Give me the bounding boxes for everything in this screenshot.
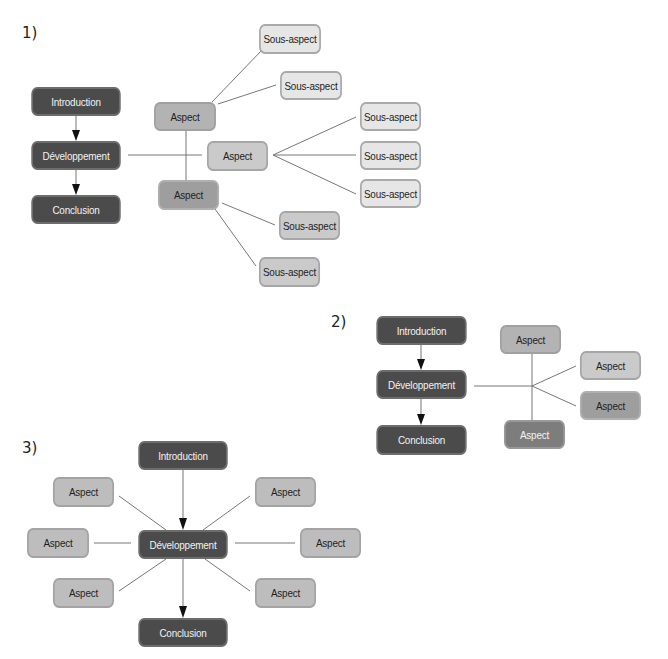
d3-aspect-upper-right: Aspect [255, 477, 316, 507]
d2-aspect-top: Aspect [500, 325, 561, 354]
d2-developpement-box: Développement [376, 370, 466, 399]
d3-introduction-box: Introduction [138, 441, 227, 470]
d1-conclusion-box: Conclusion [31, 195, 120, 224]
d1-sub-aspect-1b: Sous-aspect [280, 71, 342, 100]
diagram-1-label: 1) [22, 24, 37, 42]
d1-sub-aspect-2c: Sous-aspect [360, 179, 421, 208]
d2-introduction-box: Introduction [376, 316, 466, 345]
d1-aspect-1: Aspect [154, 102, 216, 131]
d3-conclusion-box: Conclusion [138, 618, 227, 647]
d1-sub-aspect-3a: Sous-aspect [279, 211, 340, 240]
d2-aspect-bottom: Aspect [504, 420, 565, 449]
d3-aspect-lower-left: Aspect [53, 578, 114, 608]
d1-sub-aspect-2a: Sous-aspect [360, 102, 421, 131]
d3-aspect-upper-left: Aspect [53, 477, 114, 507]
d2-aspect-right-upper: Aspect [580, 351, 641, 380]
d1-developpement-box: Développement [31, 141, 120, 170]
d3-aspect-left: Aspect [27, 528, 89, 558]
d1-sub-aspect-3b: Sous-aspect [259, 257, 320, 287]
d3-aspect-right: Aspect [300, 528, 361, 558]
d1-aspect-2: Aspect [207, 141, 268, 171]
d1-sub-aspect-2b: Sous-aspect [360, 141, 421, 170]
d3-aspect-lower-right: Aspect [255, 578, 316, 608]
d3-developpement-box: Développement [138, 530, 227, 559]
d2-aspect-right-lower: Aspect [580, 391, 641, 420]
diagram-3-label: 3) [22, 439, 37, 457]
d2-conclusion-box: Conclusion [376, 425, 466, 455]
d1-introduction-box: Introduction [31, 87, 120, 116]
diagram-canvas: 1) Introduction Développement Conclusion… [0, 0, 668, 659]
d1-aspect-3: Aspect [158, 180, 219, 210]
d1-sub-aspect-1a: Sous-aspect [259, 24, 321, 54]
diagram-2-label: 2) [331, 313, 346, 331]
